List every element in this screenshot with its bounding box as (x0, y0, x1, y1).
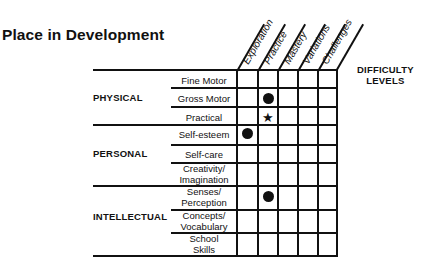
star-icon: ★ (262, 111, 274, 124)
filled-dot-icon (263, 93, 274, 104)
row-label-line: Vocabulary (171, 222, 237, 233)
row-divider (171, 144, 338, 146)
group-divider (93, 124, 338, 126)
row-divider (171, 87, 338, 89)
row-label-practical: Practical (171, 113, 237, 124)
row-label-fine-motor: Fine Motor (171, 76, 237, 87)
legend-line-2: LEVELS (357, 75, 414, 86)
row-label-senses: Senses/ Perception (171, 187, 237, 208)
column-divider (317, 70, 319, 257)
row-label-concepts: Concepts/ Vocabulary (171, 211, 237, 232)
page-title: Place in Development (2, 26, 164, 44)
row-label-line: Perception (171, 198, 237, 209)
row-label-line: Senses/ (171, 187, 237, 198)
group-divider (93, 255, 338, 257)
column-divider (297, 70, 299, 257)
row-label-gross-motor: Gross Motor (171, 94, 237, 105)
row-label-school: School Skills (171, 234, 237, 255)
row-divider (171, 106, 338, 108)
filled-dot-icon (242, 128, 253, 139)
row-label-line: School (171, 234, 237, 245)
row-label-line: Creativity/ (171, 164, 237, 175)
row-label-self-care: Self-care (171, 150, 237, 161)
column-divider (336, 70, 338, 257)
row-label-creativity: Creativity/ Imagination (171, 164, 237, 185)
group-label-personal: PERSONAL (93, 148, 147, 159)
column-divider (277, 70, 279, 257)
filled-dot-icon (263, 191, 274, 202)
row-label-line: Concepts/ (171, 211, 237, 222)
group-label-physical: PHYSICAL (93, 92, 143, 103)
legend-line-1: DIFFICULTY (357, 64, 414, 75)
row-label-self-esteem: Self-esteem (171, 130, 237, 141)
group-label-intellectual: INTELLECTUAL (93, 211, 167, 222)
row-label-line: Skills (171, 245, 237, 256)
column-divider (257, 70, 259, 257)
group-divider (93, 69, 338, 71)
difficulty-levels-label: DIFFICULTY LEVELS (357, 64, 414, 86)
row-label-line: Imagination (171, 175, 237, 186)
